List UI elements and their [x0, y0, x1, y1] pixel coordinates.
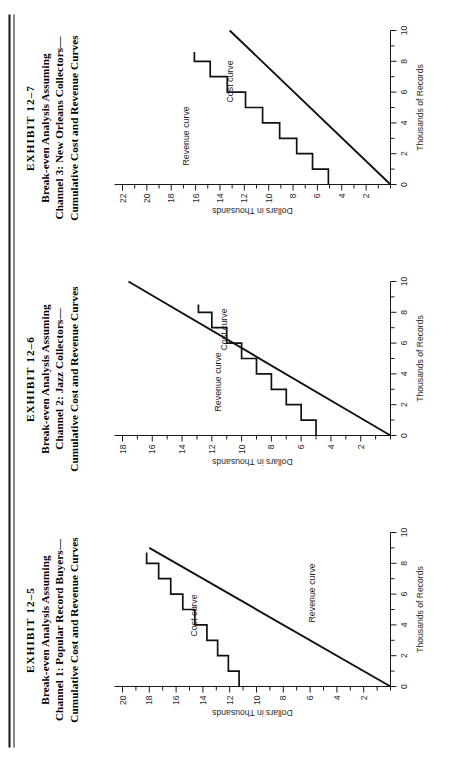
c2-y-tick-label: 14: [177, 444, 187, 454]
c3-y-tick-label: 4: [336, 193, 346, 198]
exhibit-title-line-3a: Break-even Analysis Assuming: [37, 1, 51, 254]
exhibit-title-line-3c: Cumulative Cost and Revenue Curves: [66, 1, 80, 254]
c1-y-tick-label: 2: [358, 695, 368, 700]
chart-2-revenue-label: Revenue curve: [212, 352, 222, 411]
chart-1-x-axis-label: Thousands of Records: [414, 566, 424, 652]
c1-x-tick-label: 8: [398, 560, 408, 565]
c1-y-tick-label: 16: [171, 695, 181, 705]
c3-y-tick-label: 2: [361, 193, 371, 198]
printed-page: EXHIBIT 12–5 Break-even Analysis Assumin…: [0, 0, 472, 761]
c2-y-tick-label: 2: [355, 444, 365, 449]
c2-x-tick-label: 6: [398, 340, 408, 345]
chart-1-revenue-label: Revenue curve: [306, 563, 316, 622]
exhibit-title-line-1b: Channel 1: Popular Record Buyers—: [51, 503, 65, 756]
chart-2-y-ticks: 24681012141618: [117, 435, 390, 454]
c3-y-tick-label: 10: [263, 193, 273, 203]
c3-x-tick-label: 10: [398, 25, 408, 35]
c1-y-tick-label: 8: [278, 695, 288, 700]
c2-x-tick-label: 10: [398, 276, 408, 286]
chart-1-x-ticks: 0246810: [390, 527, 408, 688]
c3-y-tick-label: 20: [141, 193, 151, 203]
c2-y-tick-label: 10: [236, 444, 246, 454]
c3-x-tick-label: 4: [398, 120, 408, 125]
c1-x-tick-label: 4: [398, 622, 408, 627]
c3-x-tick-label: 6: [398, 89, 408, 94]
exhibit-title-line-3b: Channel 3: New Orleans Collectors—: [51, 1, 65, 254]
exhibit-panels: EXHIBIT 12–5 Break-even Analysis Assumin…: [16, 0, 466, 761]
chart-3-svg: 246810121416182022 0246810 Cost curve Re…: [100, 24, 430, 220]
exhibit-title-line-2b: Channel 2: Jazz Collectors—: [51, 252, 65, 505]
chart-3-cost-label: Cost curve: [224, 60, 234, 102]
chart-2-y-axis-label: Dollars in Thousands: [212, 456, 293, 466]
c2-x-tick-label: 4: [398, 371, 408, 376]
chart-2-revenue-curve: [128, 281, 390, 435]
page-top-rule-thick: [8, 14, 10, 747]
chart-2-cost-label: Cost curve: [218, 308, 228, 350]
c3-y-tick-label: 18: [166, 193, 176, 203]
c3-y-tick-label: 14: [214, 193, 224, 203]
chart-3-cost-curve: [194, 52, 328, 184]
exhibit-title-line-2c: Cumulative Cost and Revenue Curves: [66, 252, 80, 505]
chart-1-svg: 2468101214161820 0246810 Cost curve Reve…: [100, 526, 430, 722]
c3-y-tick-label: 6: [312, 193, 322, 198]
c1-y-tick-label: 4: [331, 695, 341, 700]
chart-1-cost-label: Cost curve: [188, 594, 198, 636]
chart-3-x-ticks: 0246810: [390, 25, 408, 186]
page-top-rule-thin: [13, 14, 14, 747]
c1-y-tick-label: 12: [224, 695, 234, 705]
c2-y-tick-label: 6: [296, 444, 306, 449]
c1-x-tick-label: 6: [398, 591, 408, 596]
c3-x-tick-label: 2: [398, 151, 408, 156]
c1-y-tick-label: 10: [251, 695, 261, 705]
exhibit-number-3: EXHIBIT 12–7: [22, 1, 37, 254]
page-frame: EXHIBIT 12–5 Break-even Analysis Assumin…: [0, 0, 472, 761]
exhibit-panel-12-6: EXHIBIT 12–6 Break-even Analysis Assumin…: [16, 252, 466, 505]
chart-1-y-axis-label: Dollars in Thousands: [212, 707, 293, 717]
chart-3-y-axis-label: Dollars in Thousands: [212, 205, 293, 215]
chart-3-x-axis-label: Thousands of Records: [414, 64, 424, 150]
exhibit-title-block-1: EXHIBIT 12–5 Break-even Analysis Assumin…: [22, 503, 80, 756]
exhibit-panel-12-5: EXHIBIT 12–5 Break-even Analysis Assumin…: [16, 503, 466, 756]
c3-y-tick-label: 8: [288, 193, 298, 198]
chart-3-y-ticks: 246810121416182022: [117, 184, 390, 203]
c3-y-tick-label: 22: [117, 193, 127, 203]
c2-y-tick-label: 18: [117, 444, 127, 454]
chart-3-revenue-label: Revenue curve: [180, 106, 190, 165]
c1-x-tick-label: 10: [398, 527, 408, 537]
chart-1: 2468101214161820 0246810 Cost curve Reve…: [100, 526, 430, 722]
c3-x-tick-label: 0: [398, 181, 408, 186]
c3-y-tick-label: 16: [190, 193, 200, 203]
c1-x-tick-label: 0: [398, 683, 408, 688]
c2-y-tick-label: 4: [325, 444, 335, 449]
chart-2-x-ticks: 0246810: [390, 276, 408, 437]
exhibit-number-1: EXHIBIT 12–5: [22, 503, 37, 756]
c1-y-tick-label: 14: [197, 695, 207, 705]
c3-x-tick-label: 8: [398, 58, 408, 63]
chart-2: 24681012141618 0246810 Cost curve Revenu…: [100, 275, 430, 471]
c3-y-tick-label: 12: [239, 193, 249, 203]
chart-2-svg: 24681012141618 0246810 Cost curve Revenu…: [100, 275, 430, 471]
exhibit-title-line-1c: Cumulative Cost and Revenue Curves: [66, 503, 80, 756]
chart-2-x-axis-label: Thousands of Records: [414, 315, 424, 401]
c1-x-tick-label: 2: [398, 653, 408, 658]
chart-1-revenue-curve: [149, 547, 390, 686]
c2-y-tick-label: 16: [147, 444, 157, 454]
c1-y-tick-label: 20: [117, 695, 127, 705]
c2-x-tick-label: 8: [398, 309, 408, 314]
c2-y-tick-label: 8: [266, 444, 276, 449]
exhibit-panel-12-7: EXHIBIT 12–7 Break-even Analysis Assumin…: [16, 1, 466, 254]
c1-y-tick-label: 18: [144, 695, 154, 705]
chart-3: 246810121416182022 0246810 Cost curve Re…: [100, 24, 430, 220]
chart-1-y-ticks: 2468101214161820: [117, 686, 390, 705]
exhibit-title-block-3: EXHIBIT 12–7 Break-even Analysis Assumin…: [22, 1, 80, 254]
exhibit-number-2: EXHIBIT 12–6: [22, 252, 37, 505]
c2-y-tick-label: 12: [206, 444, 216, 454]
exhibit-title-line-2a: Break-even Analysis Assuming: [37, 252, 51, 505]
exhibit-title-line-1a: Break-even Analysis Assuming: [37, 503, 51, 756]
c1-y-tick-label: 6: [305, 695, 315, 700]
c2-x-tick-label: 2: [398, 402, 408, 407]
c2-x-tick-label: 0: [398, 432, 408, 437]
exhibit-title-block-2: EXHIBIT 12–6 Break-even Analysis Assumin…: [22, 252, 80, 505]
